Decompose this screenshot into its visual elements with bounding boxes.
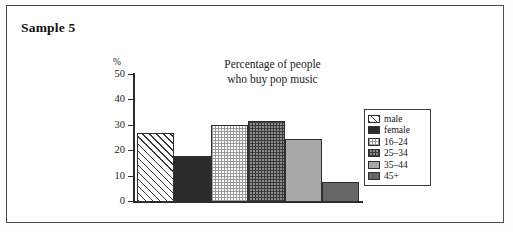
legend-label: 25–34: [384, 148, 408, 158]
legend-label: 16–24: [384, 137, 408, 147]
bar-16-24: [211, 125, 248, 202]
legend-swatch-icon: [368, 138, 380, 146]
y-tick-50: [128, 74, 134, 75]
y-tick-20: [128, 150, 134, 151]
document-sheet: Sample 5 % Percentage of people who buy …: [6, 5, 504, 223]
page-title: Sample 5: [21, 20, 75, 36]
y-axis-unit-label: %: [113, 57, 121, 67]
bar-female: [174, 156, 211, 202]
legend-label: 35–44: [384, 160, 408, 170]
y-tick-0: [128, 201, 134, 202]
bar-series: [135, 61, 363, 202]
legend-item-male: male: [368, 113, 427, 124]
y-tick-label-0: 0: [103, 196, 125, 207]
bar-male: [137, 133, 174, 202]
chart-legend: malefemale16–2425–3435–4445+: [364, 109, 431, 186]
legend-label: male: [384, 114, 402, 124]
legend-swatch-icon: [368, 172, 380, 180]
legend-swatch-icon: [368, 161, 380, 169]
bar-35-44: [285, 139, 322, 203]
legend-label: female: [384, 125, 410, 135]
legend-item-16-24: 16–24: [368, 136, 427, 147]
y-tick-label-40: 40: [103, 94, 125, 105]
screenshot-canvas: Sample 5 % Percentage of people who buy …: [0, 0, 513, 232]
y-tick-label-30: 30: [103, 120, 125, 131]
legend-item-25-34: 25–34: [368, 148, 427, 159]
legend-swatch-icon: [368, 149, 380, 157]
y-tick-label-50: 50: [103, 69, 125, 80]
legend-item-female: female: [368, 125, 427, 136]
y-tick-label-20: 20: [103, 145, 125, 156]
y-tick-30: [128, 125, 134, 126]
legend-item-35-44: 35–44: [368, 159, 427, 170]
legend-swatch-icon: [368, 126, 380, 134]
y-tick-label-10: 10: [103, 171, 125, 182]
y-tick-40: [128, 99, 134, 100]
y-tick-10: [128, 176, 134, 177]
legend-swatch-icon: [368, 115, 380, 123]
bar-chart: % Percentage of people who buy pop music…: [107, 61, 407, 216]
bar-45-: [322, 182, 359, 202]
legend-item-45-: 45+: [368, 171, 427, 182]
bar-25-34: [248, 121, 285, 202]
legend-label: 45+: [384, 171, 399, 181]
